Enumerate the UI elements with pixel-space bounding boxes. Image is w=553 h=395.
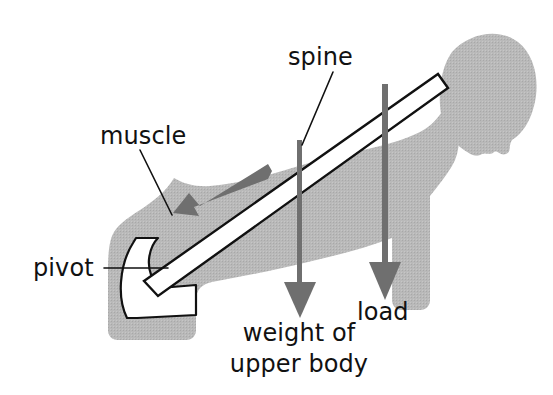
label-pivot: pivot	[33, 254, 94, 282]
spine-leader-line	[302, 72, 333, 145]
label-weight-line-2: upper body	[230, 350, 368, 378]
diagram-canvas: spine muscle pivot load weight of upper …	[0, 0, 553, 395]
load-arrow-shaft	[382, 84, 388, 272]
label-load: load	[357, 298, 409, 326]
label-muscle: muscle	[100, 122, 186, 150]
label-spine: spine	[288, 43, 353, 71]
weight-arrow-head	[284, 282, 316, 318]
spine-lever-diagram: spine muscle pivot load weight of upper …	[0, 0, 553, 395]
label-weight-line-1: weight of	[243, 319, 356, 347]
weight-arrow-shaft	[297, 140, 302, 291]
